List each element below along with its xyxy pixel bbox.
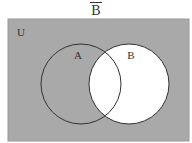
set-a-label: A xyxy=(74,49,82,61)
set-b-label: B xyxy=(127,49,134,61)
venn-diagram: B U A B xyxy=(0,0,192,143)
diagram-title: B xyxy=(91,3,100,18)
universe-label: U xyxy=(17,26,25,38)
